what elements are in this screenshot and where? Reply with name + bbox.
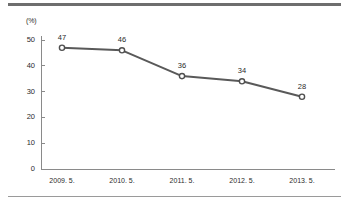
data-point-value-label: 34 xyxy=(227,67,257,75)
y-axis-tick-label: 30 xyxy=(19,88,35,96)
data-point-value-label: 47 xyxy=(47,34,77,42)
x-axis-tick-label: 2009. 5. xyxy=(30,177,94,185)
x-axis-tick-label: 2012. 5. xyxy=(210,177,274,185)
plot-canvas xyxy=(0,0,347,205)
data-point-marker xyxy=(239,79,244,84)
y-axis-tick-label: 20 xyxy=(19,113,35,121)
x-axis-tick-label: 2011. 5. xyxy=(150,177,214,185)
data-point-marker xyxy=(299,94,304,99)
data-point-value-label: 36 xyxy=(167,62,197,70)
y-axis-tick-label: 0 xyxy=(19,165,35,173)
data-point-marker xyxy=(59,45,64,50)
data-line xyxy=(62,48,302,97)
data-point-marker xyxy=(179,74,184,79)
x-axis-tick-label: 2010. 5. xyxy=(90,177,154,185)
data-point-value-label: 28 xyxy=(287,83,317,91)
x-axis-tick-label: 2013. 5. xyxy=(270,177,334,185)
chart-page: (%) 01020304050 2009. 5.2010. 5.2011. 5.… xyxy=(0,0,347,205)
data-point-marker xyxy=(119,48,124,53)
y-axis-tick-label: 40 xyxy=(19,62,35,70)
line-chart: (%) 01020304050 2009. 5.2010. 5.2011. 5.… xyxy=(0,0,347,205)
data-point-value-label: 46 xyxy=(107,36,137,44)
y-axis-tick-label: 10 xyxy=(19,139,35,147)
y-axis-tick-label: 50 xyxy=(19,36,35,44)
